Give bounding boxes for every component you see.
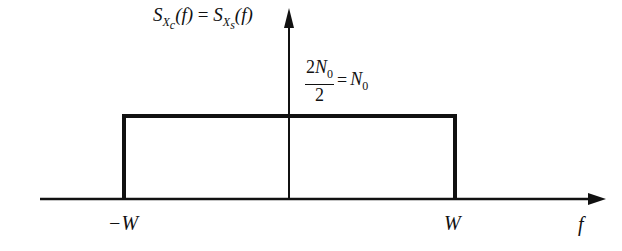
level-label: 2N0 2 =N0 bbox=[305, 57, 368, 105]
psd-plot bbox=[0, 0, 622, 251]
tick-label-neg-w: −W bbox=[108, 212, 138, 235]
y-axis-arrow-icon bbox=[284, 8, 294, 28]
tick-label-pos-w: W bbox=[444, 212, 461, 235]
x-axis-label: f bbox=[578, 213, 584, 236]
x-axis-arrow-icon bbox=[588, 193, 606, 205]
plot-title: SXc(f) = SXs(f) bbox=[153, 4, 253, 33]
